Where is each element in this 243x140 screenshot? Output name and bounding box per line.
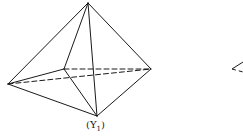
edge-apex-left [8,3,88,84]
partial-solid-edge [232,62,243,69]
hidden-edge-left-right [8,69,151,84]
edge-right-bottom [97,69,151,116]
bipyramid-y1 [8,3,151,116]
caption-open: (Y [86,119,97,130]
figure-caption: (Y1) [86,119,105,133]
partial-second-figure [232,62,243,72]
edge-left-bottom [8,84,97,116]
edge-left-back [8,69,64,84]
edge-apex-bottom [88,3,97,116]
edge-apex-right [88,3,151,69]
caption-close: ) [101,119,105,130]
partial-dashed-edge [232,69,243,72]
edge-apex-back [64,3,88,69]
bipyramid-diagram [0,0,243,140]
